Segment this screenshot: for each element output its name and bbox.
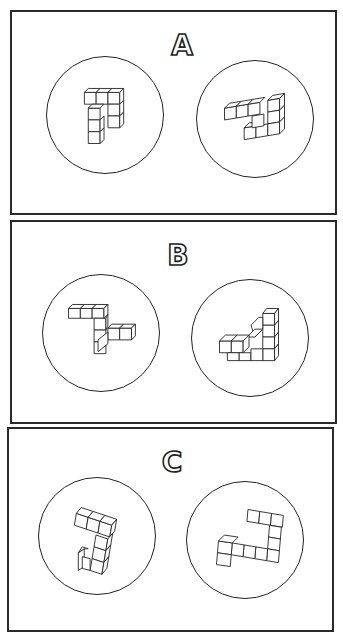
figure-a-left-circle: [46, 56, 164, 174]
cube-figure-a-right-icon: [197, 61, 313, 177]
cube-figure-a-left-icon: [47, 57, 163, 173]
figure-b-right-circle: [191, 279, 309, 397]
figure-a-right-circle: [196, 60, 314, 178]
figure-c-left-circle: [38, 477, 156, 595]
panel-label-b: B: [167, 242, 188, 270]
figure-b-left-circle: [42, 274, 160, 392]
cube-figure-b-left-icon: [43, 275, 159, 391]
cube-figure-c-left-icon: [39, 478, 155, 594]
panel-a: A: [10, 10, 337, 215]
figure-c-right-circle: [186, 481, 304, 599]
cube-figure-c-right-icon: [187, 482, 303, 598]
cube-figure-b-right-icon: [192, 280, 308, 396]
panel-b: B: [10, 220, 337, 424]
panel-label-a: A: [171, 32, 193, 60]
panel-label-c: C: [162, 449, 183, 477]
panel-c: C: [7, 427, 334, 632]
